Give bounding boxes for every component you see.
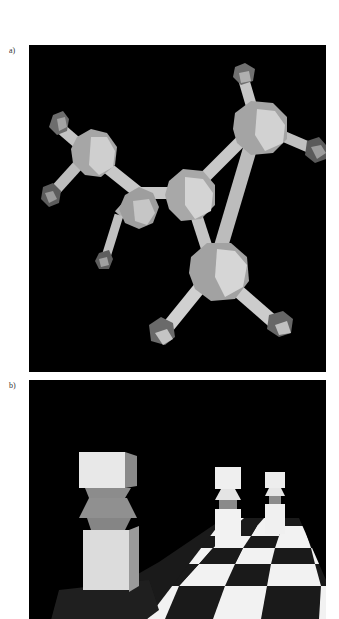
chess-piece-middle — [215, 467, 241, 548]
molecule-render-panel — [29, 45, 326, 372]
panel-b-label: b) — [9, 382, 16, 390]
molecule-illustration — [29, 45, 326, 372]
chess-render-panel — [29, 380, 326, 619]
chess-piece-far — [265, 472, 285, 534]
chess-piece-near — [51, 452, 159, 619]
panel-a-label: a) — [9, 47, 15, 55]
chess-illustration — [29, 380, 326, 619]
